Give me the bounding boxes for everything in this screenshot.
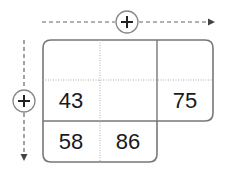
horizontal-plus-icon [116,11,138,33]
vertical-plus-icon [13,90,35,112]
cell-r1-c0: 43 [43,89,99,113]
cell-r2-c0: 58 [43,130,99,154]
cell-r2-c1: 86 [100,130,156,154]
cell-r1-c2: 75 [157,89,213,113]
